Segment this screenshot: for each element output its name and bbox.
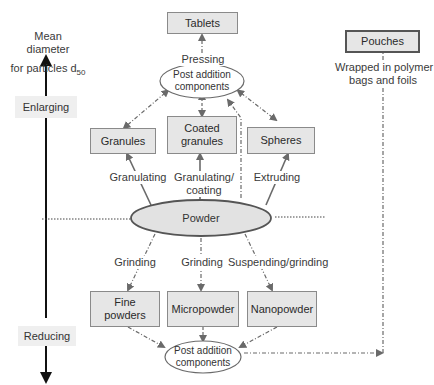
pouches-node: Pouches [345, 30, 420, 53]
axis-title-line3: for particles d50 [6, 62, 90, 79]
edge-nano-post [240, 327, 277, 347]
granulating-coating-line1: Granulating/ [172, 171, 236, 184]
edge-post-granules [124, 93, 165, 128]
axis-title-subscript: 50 [77, 68, 86, 77]
nanopowder-node: Nanopowder [247, 291, 317, 327]
post-addition-bottom-line1: Post addition [174, 345, 232, 357]
wrapped-line2: bags and foils [335, 74, 431, 87]
fine-powders-node: Fine powders [90, 291, 160, 327]
post-addition-bottom-label: Post addition components [165, 345, 241, 369]
fine-powders-line2: powders [104, 309, 146, 322]
axis-title-line1: Mean [6, 30, 90, 43]
extruding-label: Extruding [249, 171, 305, 184]
wrapped-line1: Wrapped in polymer [335, 61, 431, 74]
axis-title-line2: diameter [6, 43, 90, 56]
axis-title: Mean diameter for particles d50 [6, 30, 90, 79]
granulating-label: Granulating [102, 171, 174, 184]
post-addition-top-line1: Post addition [173, 69, 231, 81]
coated-granules-node: Coated granules [167, 116, 237, 154]
coated-granules-line1: Coated [184, 122, 219, 135]
reducing-label: Reducing [18, 326, 76, 346]
wrapped-label: Wrapped in polymer bags and foils [335, 61, 431, 87]
edge-post-spheres [241, 93, 276, 120]
tablets-node: Tablets [167, 12, 238, 34]
axis-title-text: for particles d [11, 62, 77, 74]
pressing-label: Pressing [176, 53, 230, 66]
grinding-center-label: Grinding [177, 256, 227, 269]
micropowder-node: Micropowder [167, 291, 239, 327]
spheres-node: Spheres [247, 127, 315, 154]
granules-node: Granules [90, 128, 156, 154]
post-addition-bottom-line2: components [176, 357, 230, 369]
edge-fine-post [128, 327, 164, 347]
grinding-left-label: Grinding [108, 256, 162, 269]
suspending-grinding-label: Suspending/grinding [228, 256, 328, 269]
granulating-coating-label: Granulating/ coating [172, 171, 236, 197]
powder-label: Powder [131, 210, 271, 226]
enlarging-label: Enlarging [15, 96, 77, 118]
granulating-coating-line2: coating [172, 184, 236, 197]
post-addition-top-line2: components [175, 81, 229, 93]
post-addition-top-label: Post addition components [160, 69, 244, 93]
coated-granules-line2: granules [181, 135, 223, 148]
fine-powders-line1: Fine [114, 296, 135, 309]
